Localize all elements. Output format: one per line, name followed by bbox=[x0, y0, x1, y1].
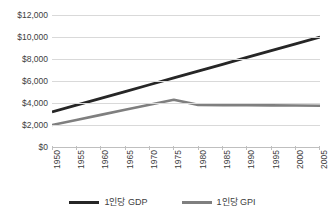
x-tick-label: 1975 bbox=[174, 150, 183, 169]
y-tick-label: $8,000 bbox=[0, 55, 48, 64]
chart-legend: 1인당 GDP 1인당 GPI bbox=[0, 193, 325, 211]
y-tick-label: $10,000 bbox=[0, 33, 48, 42]
series-line-gdp bbox=[52, 37, 320, 112]
x-tick: 1995 bbox=[271, 150, 272, 190]
legend-swatch-gpi bbox=[182, 201, 212, 204]
x-tick: 1985 bbox=[222, 150, 223, 190]
legend-label-gdp: 1인당 GDP bbox=[104, 197, 147, 207]
x-tick-label: 1995 bbox=[272, 150, 281, 169]
x-tick-label: 2000 bbox=[296, 150, 305, 169]
gridline bbox=[52, 59, 320, 60]
y-tick-label: $0 bbox=[0, 143, 48, 152]
x-tick-label: 1990 bbox=[247, 150, 256, 169]
legend-item-gpi[interactable]: 1인당 GPI bbox=[182, 197, 256, 207]
y-tick-label: $6,000 bbox=[0, 77, 48, 86]
gridline bbox=[52, 81, 320, 82]
x-tick-label: 1980 bbox=[199, 150, 208, 169]
x-tick: 1965 bbox=[125, 150, 126, 190]
legend-swatch-gdp bbox=[69, 201, 99, 204]
gridline bbox=[52, 37, 320, 38]
x-tick: 1980 bbox=[198, 150, 199, 190]
x-tick-label: 1955 bbox=[77, 150, 86, 169]
gridline bbox=[52, 125, 320, 126]
y-tick-label: $4,000 bbox=[0, 99, 48, 108]
legend-label-gpi: 1인당 GPI bbox=[217, 197, 256, 207]
gridline bbox=[52, 103, 320, 104]
x-tick-label: 1965 bbox=[126, 150, 135, 169]
gridline bbox=[52, 15, 320, 16]
x-tick-label: 2005 bbox=[320, 150, 329, 169]
x-tick-label: 1960 bbox=[101, 150, 110, 169]
y-tick-label: $2,000 bbox=[0, 121, 48, 130]
legend-item-gdp[interactable]: 1인당 GDP bbox=[69, 197, 147, 207]
x-tick: 2005 bbox=[319, 150, 320, 190]
x-axis: 1950 1955 1960 1965 1970 1975 1980 1985 bbox=[52, 150, 320, 190]
x-tick: 1970 bbox=[149, 150, 150, 190]
x-tick: 1950 bbox=[52, 150, 53, 190]
x-tick: 1960 bbox=[100, 150, 101, 190]
x-tick: 1990 bbox=[246, 150, 247, 190]
y-tick-label: $12,000 bbox=[0, 11, 48, 20]
plot-area bbox=[52, 15, 320, 147]
x-tick: 1955 bbox=[76, 150, 77, 190]
x-tick-label: 1985 bbox=[223, 150, 232, 169]
x-tick-label: 1950 bbox=[53, 150, 62, 169]
axis-baseline bbox=[52, 147, 320, 148]
y-axis: $12,000 $10,000 $8,000 $6,000 $4,000 $2,… bbox=[0, 0, 48, 162]
x-tick: 2000 bbox=[295, 150, 296, 190]
x-tick-label: 1970 bbox=[150, 150, 159, 169]
x-tick: 1975 bbox=[173, 150, 174, 190]
